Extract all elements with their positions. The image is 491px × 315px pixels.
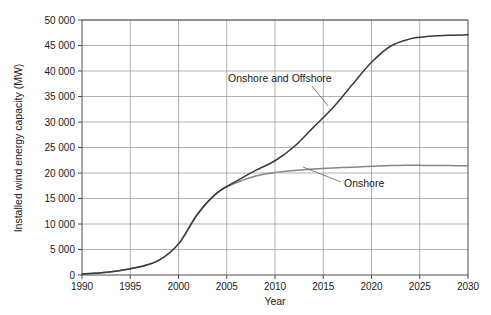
- x-axis-tick-labels: 199019952000200520102015202020252030: [71, 281, 480, 292]
- y-tick-label: 15 000: [44, 193, 75, 204]
- wind-capacity-chart-figure: 05 00010 00015 00020 00025 00030 00035 0…: [0, 0, 491, 315]
- series-annotations: Onshore and OffshoreOnshore: [228, 72, 384, 189]
- x-tick-label: 2000: [167, 281, 190, 292]
- y-tick-label: 45 000: [44, 40, 75, 51]
- x-tick-label: 2030: [457, 281, 480, 292]
- series-annotation-label: Onshore: [344, 177, 384, 189]
- y-tick-label: 25 000: [44, 142, 75, 153]
- x-tick-label: 2005: [216, 281, 239, 292]
- y-tick-label: 0: [69, 270, 75, 281]
- y-axis-title: Installed wind energy capacity (MW): [12, 64, 24, 233]
- x-tick-label: 1990: [71, 281, 94, 292]
- x-axis-title: Year: [264, 295, 286, 307]
- x-tick-label: 2010: [264, 281, 287, 292]
- axis-tick-marks: [78, 20, 468, 279]
- x-tick-label: 2015: [312, 281, 335, 292]
- annotation-leader-line: [303, 167, 341, 182]
- chart-canvas: 05 00010 00015 00020 00025 00030 00035 0…: [0, 0, 491, 315]
- y-tick-label: 10 000: [44, 219, 75, 230]
- x-tick-label: 2025: [409, 281, 432, 292]
- y-tick-label: 5 000: [50, 244, 75, 255]
- y-tick-label: 40 000: [44, 66, 75, 77]
- x-tick-label: 2020: [360, 281, 383, 292]
- annotation-leader-line: [312, 86, 328, 106]
- x-tick-label: 1995: [119, 281, 142, 292]
- y-tick-label: 35 000: [44, 91, 75, 102]
- y-tick-label: 20 000: [44, 168, 75, 179]
- y-tick-label: 50 000: [44, 15, 75, 26]
- series-annotation-label: Onshore and Offshore: [228, 72, 332, 84]
- y-tick-label: 30 000: [44, 117, 75, 128]
- y-axis-tick-labels: 05 00010 00015 00020 00025 00030 00035 0…: [44, 15, 75, 281]
